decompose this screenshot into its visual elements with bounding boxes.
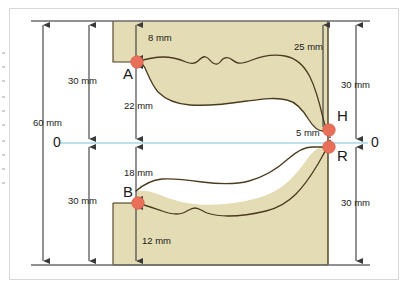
point-marker-h[interactable]	[323, 124, 335, 136]
axis-label-left-0: 0	[53, 135, 61, 149]
axis-label-right-0: 0	[371, 135, 379, 149]
lower-cam-body	[113, 147, 328, 265]
point-marker-b[interactable]	[132, 197, 144, 209]
dimension-label-top-to-point-h: 25 mm	[294, 42, 323, 52]
diagram-page: 60 mm 30 mm 30 mm 8 mm 22 mm 18 mm 12 mm…	[0, 0, 409, 288]
upper-cam-body	[113, 21, 328, 131]
dimension-label-point-b-to-bottom: 12 mm	[142, 236, 171, 246]
dimension-label-upper-half-right: 30 mm	[341, 80, 370, 90]
dimension-label-point-h-to-point-r: 5 mm	[296, 128, 320, 138]
point-label-h: H	[337, 108, 348, 123]
point-label-b: B	[123, 184, 133, 199]
dimension-label-lower-half-left: 30 mm	[68, 196, 97, 206]
dimension-label-overall-height: 60 mm	[33, 118, 62, 128]
technical-drawing-canvas	[0, 0, 409, 288]
dimension-label-axis-to-point-b: 18 mm	[124, 168, 153, 178]
dimension-label-point-a-to-axis: 22 mm	[124, 101, 153, 111]
point-label-r: R	[337, 148, 348, 163]
dimension-label-upper-half-left: 30 mm	[68, 76, 97, 86]
point-marker-r[interactable]	[323, 141, 335, 153]
dimension-label-top-clearance: 8 mm	[148, 33, 172, 43]
dimension-label-lower-half-right: 30 mm	[341, 198, 370, 208]
point-label-a: A	[123, 66, 133, 81]
